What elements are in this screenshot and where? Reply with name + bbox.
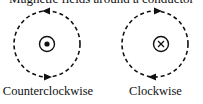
arrow-left-icon (42, 8, 50, 15)
arrow-right-icon (44, 74, 52, 81)
counterclockwise-field (14, 8, 80, 81)
counterclockwise-label: Counterclockwise (0, 84, 96, 99)
clockwise-label: Clockwise (108, 84, 203, 99)
arrow-right-icon (154, 8, 162, 15)
arrow-left-icon (148, 74, 156, 81)
clockwise-field (122, 8, 188, 81)
